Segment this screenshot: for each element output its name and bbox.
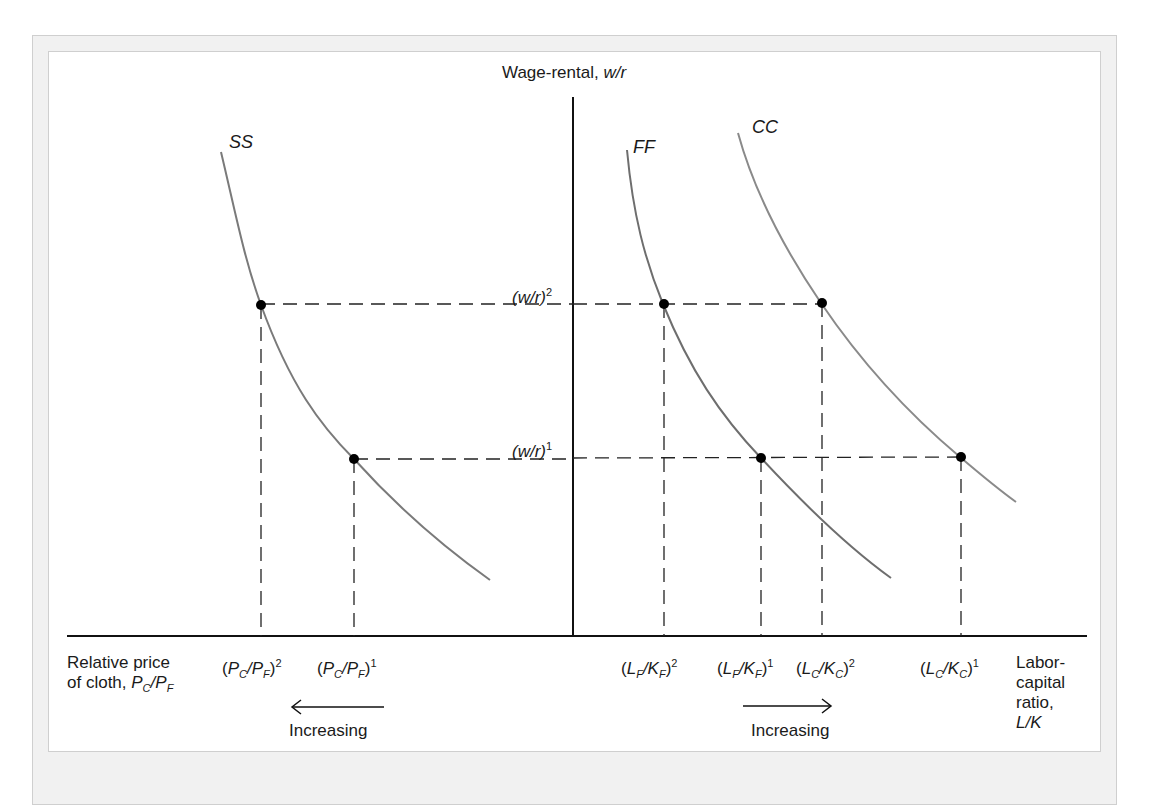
y-axis-label: Wage-rental, w/r	[502, 63, 626, 83]
tick-pcpf1: (PC/PF)1	[317, 653, 377, 684]
right-axis-label-line2: capital	[1016, 673, 1065, 693]
curve-cc	[738, 133, 1016, 502]
tick-lckc2: (LC/KC)2	[796, 653, 855, 684]
point-cc-wr2	[817, 298, 827, 308]
tick-pcpf2: (PC/PF)2	[222, 653, 282, 684]
left-increasing-label: Increasing	[289, 721, 367, 741]
point-cc-wr1	[956, 452, 966, 462]
tick-lfkf2: (LF/KF)2	[621, 653, 677, 684]
left-axis-label-line2: of cloth, PC/PF	[67, 673, 173, 698]
left-axis-label-line1: Relative price	[67, 653, 170, 673]
right-increasing-label: Increasing	[751, 721, 829, 741]
label-ss: SS	[229, 132, 253, 152]
right-axis-label-line3: ratio,	[1016, 693, 1054, 713]
tick-wr2: (w/r)2	[512, 282, 552, 308]
point-ss-wr2	[256, 300, 266, 310]
tick-lfkf1: (LF/KF)1	[717, 653, 773, 684]
point-ff-wr2	[659, 299, 669, 309]
label-ff: FF	[633, 137, 655, 157]
right-axis-label-line1: Labor-	[1016, 653, 1065, 673]
curve-ff	[627, 150, 891, 578]
tick-wr1: (w/r)1	[512, 436, 552, 462]
point-ss-wr1	[349, 454, 359, 464]
dashed-wr1-right	[573, 457, 960, 458]
point-ff-wr1	[756, 453, 766, 463]
right-axis-label-line4: L/K	[1016, 713, 1042, 733]
label-cc: CC	[752, 117, 778, 137]
tick-lckc1: (LC/KC)1	[920, 653, 979, 684]
